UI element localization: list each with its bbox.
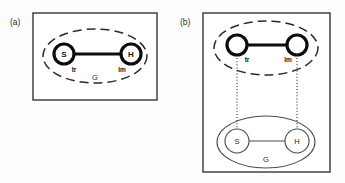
panel-b-frame [203,13,330,172]
panel-a-node-s-label: S [61,50,67,59]
panel-b: (b) tr lm S H G [180,13,330,172]
panel-b-role-lm: lm [284,56,292,63]
panel-a-node-h-label: H [128,50,134,59]
panel-a-tag: (a) [10,17,21,27]
panel-a: (a) S H tr lm G [10,13,157,100]
panel-a-role-tr: tr [72,66,77,73]
panel-b-tag: (b) [180,17,191,27]
panel-b-lower-group-label: G [263,155,269,164]
panel-b-role-tr: tr [245,56,250,63]
panel-a-role-lm: lm [118,66,126,73]
panel-a-group-label: G [92,73,98,82]
figure-root: (a) S H tr lm G (b) [0,0,345,183]
figure-canvas: (a) S H tr lm G (b) [0,0,345,183]
panel-b-lower-node-s-label: S [234,137,239,146]
panel-b-lower-node-h-label: H [294,137,299,146]
panel-b-upper-node-tr [227,35,247,55]
panel-b-upper-node-lm [287,35,307,55]
